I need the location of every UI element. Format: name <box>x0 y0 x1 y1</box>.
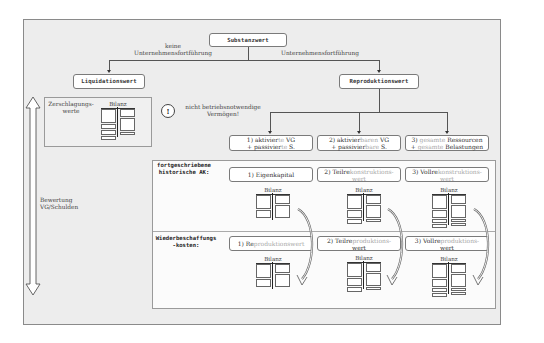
row1-box-3: 3) Vollrekonstruktions- wert <box>405 167 489 182</box>
substanzwert-box: Substanzwert <box>209 33 287 47</box>
arrow-down-icon <box>445 131 449 134</box>
bilanz-teilreproduktion: Bilanz <box>347 255 381 292</box>
connector <box>359 112 360 132</box>
curved-arrow-icon <box>384 205 408 287</box>
bilanz-liquidation: Bilanz <box>101 101 135 140</box>
liquidationswert-box: Liquidationswert <box>73 74 145 89</box>
connector <box>379 89 380 112</box>
row1-box-1: 1) Eigenkapital <box>229 167 313 182</box>
bilanz-teilrekonstruktion: Bilanz <box>347 187 381 224</box>
connector <box>447 112 448 132</box>
bilanz-vollrekonstruktion: Bilanz <box>432 187 466 228</box>
reproduktionswert-box: Reproduktionswert <box>339 74 419 89</box>
row1-box-2: 2) Teilrekonstruktions- wert <box>317 167 401 182</box>
arrow-down-icon <box>377 70 381 73</box>
connector <box>248 47 249 61</box>
connector <box>109 60 380 61</box>
curved-arrow-icon <box>470 205 494 287</box>
option-box-3: 3) gesamte Ressourcen + gesamte Belastun… <box>405 135 489 151</box>
connector <box>109 60 110 70</box>
arrow-down-icon <box>357 131 361 134</box>
connector <box>379 60 380 70</box>
branch-label-right: Unternehmensfortführung <box>275 50 365 57</box>
arrow-down-icon <box>268 131 272 134</box>
zerschlagungswerte-label: Zerschlagungs- werte <box>46 101 96 115</box>
row-label-wiederbeschaffungskosten: Wiederbeschaffungs -kosten: <box>154 235 218 249</box>
substanzwert-label: Substanzwert <box>227 37 269 44</box>
exclamation-circle-icon: ! <box>161 104 175 118</box>
row-label-historische-ak: fortgeschriebene historische AK: <box>156 162 212 176</box>
curved-arrow-icon <box>294 205 318 287</box>
option-box-1: 1) aktivierte VG + passivierte S. <box>229 135 313 151</box>
branch-label-left: keine Unternehmensfortführung <box>128 43 218 57</box>
axis-label: Bewertung VG/Schulden <box>40 197 78 211</box>
bilanz-eigenkapital: Bilanz <box>256 187 290 218</box>
up-down-arrow-icon <box>25 96 41 296</box>
option-box-2: 2) aktivierbaren VG + passivierbare S. <box>317 135 401 151</box>
row-divider <box>153 231 495 232</box>
bilanz-reproduktionswert: Bilanz <box>256 256 290 287</box>
note-text: nicht betriebsnotwendige Vermögen! <box>178 104 268 118</box>
connector <box>270 112 271 132</box>
bilanz-vollreproduktion: Bilanz <box>432 256 466 297</box>
arrow-down-icon <box>107 70 111 73</box>
